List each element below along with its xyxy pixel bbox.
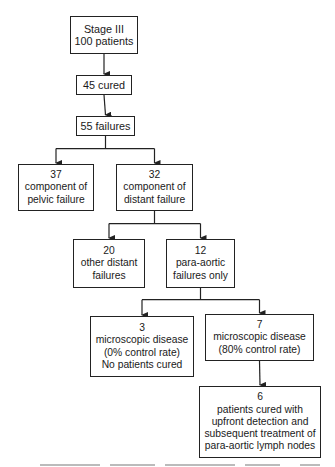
node-para-aortic-failures: 12para-aorticfailures only [166,239,235,288]
node-text-line: 7 [257,319,263,331]
node-text-line: microscopic disease [96,334,189,346]
node-microscopic-0-percent: 3microscopic disease(0% control rate)No … [90,316,194,377]
node-text-line: para-aortic lymph nodes [205,440,315,452]
node-text-line: 3 [139,322,145,334]
clipped-caption-fragment [0,462,335,467]
node-text-line: distant failure [124,194,185,206]
node-text-line: (80% control rate) [219,344,301,356]
node-microscopic-80-percent: 7microscopic disease(80% control rate) [205,314,314,361]
node-text-line: 100 patients [75,35,134,47]
node-pelvic-failure: 37component ofpelvic failure [18,164,94,211]
node-text-line: subsequent treatment of [204,428,315,440]
node-text-line: component of [123,181,185,193]
node-text-line: microscopic disease [213,331,306,343]
edge-micro_80-to-cured_upfront [260,361,261,385]
flowchart: Stage III100 patients 45 cured 55 failur… [0,0,335,467]
node-text-line: failures [92,270,125,282]
node-text-line: No patients cured [102,359,183,371]
node-text-line: Stage III [84,23,124,35]
node-text-line: failures only [173,270,228,282]
node-text-line: 37 [50,169,61,181]
node-failures: 55 failures [76,116,135,136]
node-text-line: 45 cured [83,79,125,91]
node-cured: 45 cured [76,75,132,95]
edge-cured-to-failures [104,95,106,115]
node-distant-failure: 32component ofdistant failure [116,164,193,211]
node-text-line: 32 [149,169,160,181]
node-text-line: component of [25,181,87,193]
node-text-line: upfront detection and [212,416,309,428]
node-patients-cured-upfront: 6patients cured withupfront detection an… [199,386,321,458]
node-other-distant-failures: 20other distantfailures [73,239,145,288]
node-text-line: para-aortic [176,257,225,269]
node-text-line: 20 [103,245,114,257]
node-text-line: 6 [257,391,263,403]
node-text-line: other distant [81,257,138,269]
node-text-line: (0% control rate) [104,347,180,359]
node-stage-iii: Stage III100 patients [70,16,138,54]
node-text-line: 12 [195,245,206,257]
node-text-line: pelvic failure [27,194,84,206]
node-text-line: patients cured with [217,404,303,416]
node-text-line: 55 failures [81,120,131,132]
